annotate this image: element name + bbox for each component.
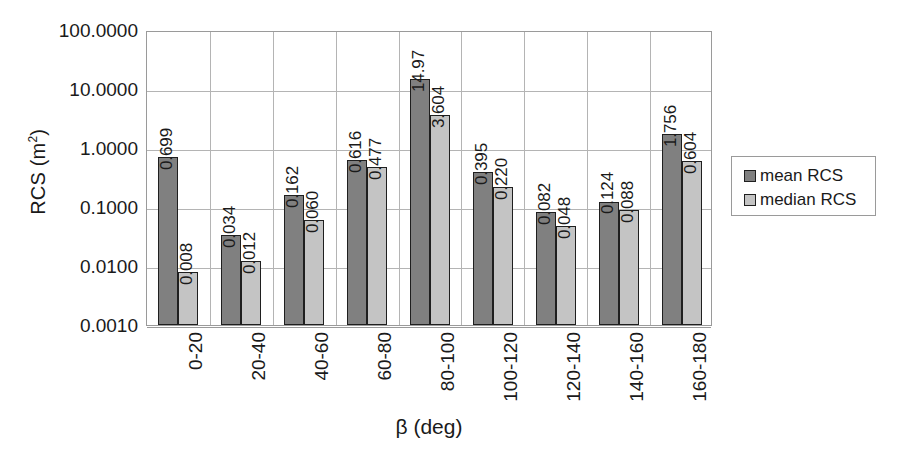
bar-mean-rcs[interactable] (284, 195, 304, 325)
bar-mean-rcs[interactable] (536, 212, 556, 325)
bar-group: 0.6160.477 (336, 32, 399, 325)
y-axis-tick-labels: 100.000010.00001.00000.10000.01000.0010 (18, 0, 138, 459)
bar-mean-rcs[interactable] (599, 202, 619, 326)
x-axis-tick-label: 60-80 (375, 332, 394, 381)
bar-value-label: 0.008 (178, 243, 195, 285)
legend-label-median-rcs: median RCS (760, 190, 856, 210)
x-axis-tick-label: 20-40 (249, 332, 268, 381)
rcs-bar-chart: RCS (m2) 100.000010.00001.00000.10000.01… (0, 0, 914, 459)
bar-mean-rcs[interactable] (473, 172, 493, 325)
bar-value-label: 0.060 (304, 191, 321, 233)
bar-value-label: 14.97 (410, 50, 427, 92)
y-axis-tick-label: 10.0000 (20, 79, 138, 101)
legend-item-mean-rcs[interactable]: mean RCS (744, 164, 875, 187)
y-axis-tick-label: 0.0100 (20, 256, 138, 278)
bar-value-label: 0.220 (493, 158, 510, 200)
y-axis-tick-label: 1.0000 (20, 138, 138, 160)
bar-group: 0.3950.220 (461, 32, 524, 325)
bar-group: 0.6990.008 (147, 32, 210, 325)
legend-swatch-icon-mean-rcs (744, 170, 756, 182)
bar-value-label: 0.034 (221, 206, 238, 248)
bar-median-rcs[interactable] (430, 115, 450, 325)
legend-swatch-icon-median-rcs (744, 194, 756, 206)
y-axis-tick-label: 0.0010 (20, 315, 138, 337)
y-axis-tick-label: 0.1000 (20, 197, 138, 219)
bar-group: 0.1620.060 (273, 32, 336, 325)
x-axis-tick-label: 160-180 (690, 332, 709, 402)
x-axis-tick-labels: 0-2020-4040-6060-8080-100100-120120-1401… (146, 326, 712, 416)
y-axis-tick-label: 100.0000 (20, 20, 138, 42)
bar-value-label: 0.012 (241, 232, 258, 274)
bar-value-label: 0.048 (556, 197, 573, 239)
bar-mean-rcs[interactable] (410, 79, 430, 325)
bar-group: 0.0820.048 (524, 32, 587, 325)
bar-value-label: 3.604 (430, 86, 447, 128)
bar-value-label: 0.477 (367, 138, 384, 180)
legend-label-mean-rcs: mean RCS (760, 166, 843, 186)
bar-value-label: 0.616 (347, 131, 364, 173)
bar-median-rcs[interactable] (493, 187, 513, 325)
x-axis-tick-label: 100-120 (501, 332, 520, 402)
bar-median-rcs[interactable] (304, 220, 324, 325)
bar-mean-rcs[interactable] (158, 157, 178, 325)
bar-group: 0.1240.088 (587, 32, 650, 325)
bar-group: 0.0340.012 (210, 32, 273, 325)
bar-mean-rcs[interactable] (347, 160, 367, 325)
bar-value-label: 0.082 (536, 183, 553, 225)
plot-area: 0.6990.0080.0340.0120.1620.0600.6160.477… (146, 31, 712, 326)
bar-group: 14.973.604 (399, 32, 462, 325)
bar-median-rcs[interactable] (556, 226, 576, 325)
bar-group: 1.7560.604 (650, 32, 713, 325)
chart-legend: mean RCS median RCS (731, 156, 876, 216)
x-axis-tick-label: 0-20 (186, 332, 205, 370)
bar-value-label: 0.088 (619, 181, 636, 223)
bar-value-label: 0.699 (158, 128, 175, 170)
bar-mean-rcs[interactable] (662, 134, 682, 325)
bar-median-rcs[interactable] (682, 161, 702, 325)
x-axis-title: β (deg) (146, 415, 712, 439)
bar-median-rcs[interactable] (367, 167, 387, 325)
bar-value-label: 0.604 (682, 132, 699, 174)
x-axis-tick-label: 80-100 (438, 332, 457, 391)
bar-value-label: 0.395 (473, 143, 490, 185)
x-axis-tick-label: 140-160 (627, 332, 646, 402)
x-axis-tick-label: 40-60 (312, 332, 331, 381)
legend-item-median-rcs[interactable]: median RCS (744, 188, 875, 211)
x-axis-tick-label: 120-140 (564, 332, 583, 402)
bar-median-rcs[interactable] (619, 210, 639, 325)
bar-value-label: 1.756 (662, 105, 679, 147)
bar-mean-rcs[interactable] (221, 235, 241, 325)
bar-value-label: 0.124 (599, 172, 616, 214)
bar-value-label: 0.162 (284, 166, 301, 208)
